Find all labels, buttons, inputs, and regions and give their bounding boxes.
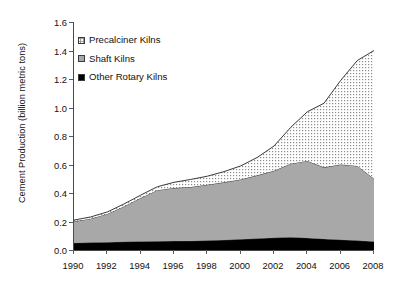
x-tick-label: 2008 [353,260,393,271]
y-tick-label: 1.4 [33,45,67,56]
x-tick-mark [206,250,207,254]
y-tick-mark [69,79,73,80]
legend-label-other-rotary: Other Rotary Kilns [89,72,167,82]
y-tick-label: 1.6 [33,17,67,28]
x-tick-mark [273,250,274,254]
chart-legend: Precalciner Kilns Shaft Kilns Other Rota… [78,34,167,90]
legend-item-precalciner-kilns: Precalciner Kilns [78,34,167,46]
y-tick-label: 0.6 [33,159,67,170]
y-tick-mark [69,51,73,52]
y-tick-mark [69,165,73,166]
y-tick-mark [69,22,73,23]
x-tick-mark [240,250,241,254]
y-tick-mark [69,108,73,109]
other-rotary-swatch-icon [78,74,85,81]
x-tick-mark [340,250,341,254]
x-tick-mark [306,250,307,254]
x-tick-mark [140,250,141,254]
legend-label-precalciner: Precalciner Kilns [89,35,160,45]
shaft-swatch-icon [78,55,85,62]
y-axis-title: Cement Production (billion metric tons) [17,8,27,238]
y-tick-mark [69,193,73,194]
y-tick-mark [69,136,73,137]
legend-item-other-rotary-kilns: Other Rotary Kilns [78,71,167,83]
y-tick-label: 0.2 [33,216,67,227]
y-tick-mark [69,222,73,223]
y-tick-label: 0.0 [33,245,67,256]
y-tick-label: 1.0 [33,102,67,113]
legend-item-shaft-kilns: Shaft Kilns [78,53,167,65]
x-tick-mark [106,250,107,254]
x-tick-mark [173,250,174,254]
precalciner-swatch-icon [78,37,85,44]
y-tick-label: 0.4 [33,188,67,199]
x-tick-mark [373,250,374,254]
x-tick-mark [73,250,74,254]
y-tick-label: 1.2 [33,74,67,85]
cement-production-stacked-area-chart: Cement Production (billion metric tons) … [0,0,401,283]
legend-label-shaft: Shaft Kilns [89,54,135,64]
y-tick-label: 0.8 [33,131,67,142]
